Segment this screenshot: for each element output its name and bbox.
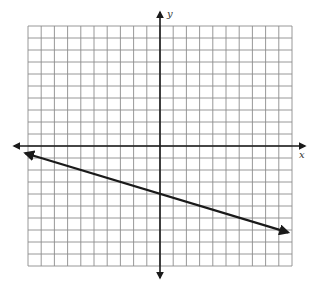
axes: x y: [14, 8, 305, 278]
x-axis-label: x: [299, 149, 305, 160]
graphed-line: [25, 153, 288, 232]
coordinate-plane: x y: [0, 0, 316, 283]
y-axis-label: y: [166, 8, 173, 19]
